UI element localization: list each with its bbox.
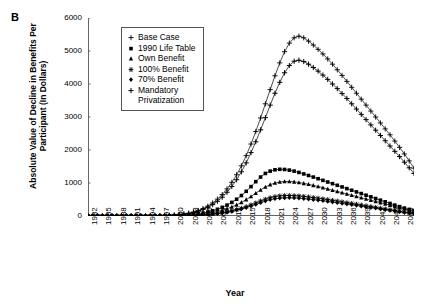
- legend-item-label: 100% Benefit: [137, 64, 189, 75]
- x-tick-label: 1994: [149, 207, 157, 225]
- x-tick-label: 2006: [206, 207, 214, 225]
- x-tick-label: 2033: [336, 207, 344, 225]
- y-tick-label: 5000: [64, 47, 82, 55]
- x-tick-label: 2018: [264, 207, 272, 225]
- triangle-icon: [126, 53, 137, 64]
- x-tick-label: 1997: [163, 207, 171, 225]
- legend-item-label: 1990 Life Table: [137, 43, 196, 54]
- x-tick-label: 2003: [192, 207, 200, 225]
- figure-panel-b: B Absolute Value of Decline in Benefits …: [0, 0, 423, 307]
- legend-item-mandatory[interactable]: MandatoryPrivatization: [126, 85, 196, 106]
- x-tick-label: 2048: [407, 207, 415, 225]
- y-tick-label: 3000: [64, 113, 82, 121]
- legend-item-own-benefit[interactable]: Own Benefit: [126, 53, 196, 64]
- x-tick-label: 2027: [307, 207, 315, 225]
- square-icon: [126, 43, 137, 54]
- x-tick-label: 1988: [120, 207, 128, 225]
- plus-icon: [126, 85, 137, 96]
- x-axis-label: Year: [60, 288, 410, 298]
- legend-item-label: 70% Benefit: [137, 74, 184, 85]
- legend-item-label: Own Benefit: [137, 53, 184, 64]
- x-tick-label: 2039: [364, 207, 372, 225]
- legend-item-70-benefit[interactable]: 70% Benefit: [126, 74, 196, 85]
- legend-item-base-case[interactable]: Base Case: [126, 32, 196, 43]
- plus-thin-icon: [126, 32, 137, 43]
- x-tick-label: 2024: [292, 207, 300, 225]
- legend-item-label: Base Case: [137, 32, 180, 43]
- x-tick-label: 1985: [105, 207, 113, 225]
- x-tick-label: 2045: [393, 207, 401, 225]
- x-tick-label: 2021: [278, 207, 286, 225]
- y-tick-label: 2000: [64, 146, 82, 154]
- legend-item-label: MandatoryPrivatization: [137, 85, 184, 106]
- y-tick-label: 6000: [64, 14, 82, 22]
- legend-item-1990-life-table[interactable]: 1990 Life Table: [126, 43, 196, 54]
- x-tick-label: 2012: [235, 207, 243, 225]
- x-tick-label: 1982: [91, 207, 99, 225]
- star-icon: [126, 64, 137, 75]
- y-tick-label: 4000: [64, 80, 82, 88]
- chart-legend: Base Case1990 Life TableOwn Benefit100% …: [121, 27, 204, 111]
- x-tick-label: 1991: [134, 207, 142, 225]
- legend-item-100-benefit[interactable]: 100% Benefit: [126, 64, 196, 75]
- x-tick-label: 2015: [249, 207, 257, 225]
- panel-label: B: [11, 11, 19, 23]
- y-tick-label: 0: [78, 212, 82, 220]
- diamond-icon: [126, 74, 137, 85]
- y-axis-tick-labels: 0100020003000400050006000: [38, 0, 82, 307]
- x-tick-label: 2030: [321, 207, 329, 225]
- legend-item-label-line2: Privatization: [138, 95, 184, 106]
- x-tick-label: 2036: [350, 207, 358, 225]
- y-tick-label: 1000: [64, 179, 82, 187]
- x-axis-tick-labels: 1982198519881991199419972000200320062009…: [88, 219, 418, 283]
- x-tick-label: 2042: [379, 207, 387, 225]
- x-tick-label: 2000: [177, 207, 185, 225]
- x-tick-label: 2009: [220, 207, 228, 225]
